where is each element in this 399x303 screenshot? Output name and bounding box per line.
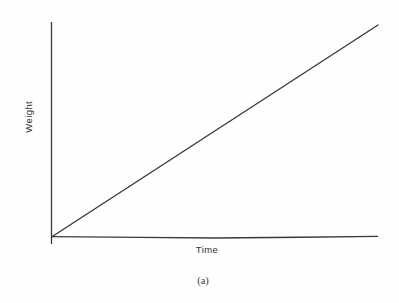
- x-axis-label: Time: [157, 245, 257, 255]
- figure-container: Weight Time (a): [0, 0, 399, 303]
- y-axis-label: Weight: [24, 88, 34, 146]
- x-axis-line: [51, 236, 378, 238]
- data-line-weight-vs-time: [52, 25, 379, 237]
- chart-plot-area: [0, 0, 399, 303]
- figure-caption: (a): [153, 276, 253, 287]
